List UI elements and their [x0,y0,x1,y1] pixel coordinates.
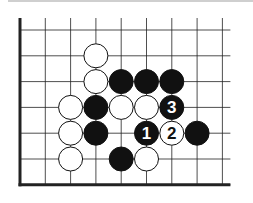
white-stone [59,121,83,145]
black-stone [84,121,108,145]
go-board: 312 [0,0,253,203]
white-stone [59,147,83,171]
black-stone [135,70,159,94]
black-stone: 3 [160,95,184,119]
black-stone [160,70,184,94]
white-stone [135,147,159,171]
move-number: 2 [167,124,176,143]
black-stone [109,70,133,94]
black-stone: 1 [135,121,159,145]
white-stone: 2 [160,121,184,145]
white-stone [84,44,108,68]
move-number: 3 [167,98,176,117]
white-stone [109,95,133,119]
black-stone [185,121,209,145]
white-stone [135,95,159,119]
black-stone [84,95,108,119]
black-stone [109,147,133,171]
move-number: 1 [142,124,151,143]
white-stone [59,95,83,119]
white-stone [84,70,108,94]
